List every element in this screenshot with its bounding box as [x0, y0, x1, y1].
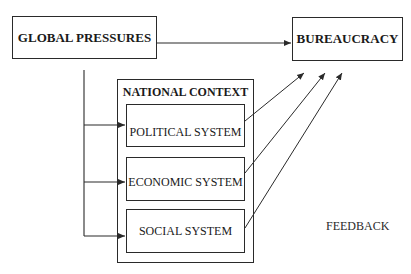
node-bureaucracy: BUREAUCRACY: [292, 17, 403, 61]
node-social-system: SOCIAL SYSTEM: [126, 209, 245, 253]
arrow-social-to-bureaucracy: [245, 73, 342, 228]
feedback-label: FEEDBACK: [326, 219, 389, 234]
node-economic-system-label: ECONOMIC SYSTEM: [128, 169, 242, 190]
national-context-title: NATIONAL CONTEXT: [118, 85, 253, 100]
node-political-system: POLITICAL SYSTEM: [126, 104, 245, 147]
node-economic-system: ECONOMIC SYSTEM: [126, 157, 245, 201]
diagram-canvas: GLOBAL PRESSURES BUREAUCRACY NATIONAL CO…: [0, 0, 411, 274]
node-bureaucracy-label: BUREAUCRACY: [297, 31, 399, 47]
node-social-system-label: SOCIAL SYSTEM: [139, 224, 232, 239]
node-global-pressures-label: GLOBAL PRESSURES: [18, 30, 151, 46]
node-global-pressures: GLOBAL PRESSURES: [12, 16, 157, 59]
node-political-system-label: POLITICAL SYSTEM: [130, 111, 242, 140]
